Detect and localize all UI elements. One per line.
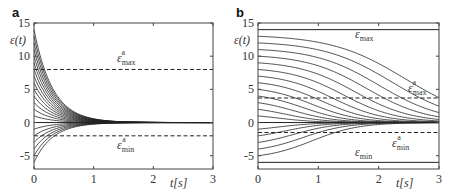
panel-a-eps-min-a-label: εmina	[117, 135, 134, 154]
trajectory-curve	[34, 76, 213, 122]
x-tick-label: 3	[210, 172, 216, 186]
x-tick-label: 2	[150, 172, 156, 186]
y-tick-label: 10	[18, 49, 30, 63]
panel-b-ylabel: ε(t)	[234, 33, 250, 47]
y-tick-label: 5	[248, 82, 254, 96]
y-tick-label: 15	[18, 16, 30, 30]
x-tick-label: 0	[31, 172, 37, 186]
y-tick-label: -5	[20, 149, 30, 163]
panel-b-eps-max-a-label: εmaxa	[408, 78, 427, 97]
panel-a-ticks: 0123-5051015	[18, 16, 216, 186]
x-tick-label: 0	[255, 172, 261, 186]
figure: a 0123-5051015 ε(t) t[s] εmaxa εmina b 0…	[0, 0, 452, 196]
panel-a-xlabel: t[s]	[170, 176, 188, 190]
x-tick-label: 2	[376, 172, 382, 186]
panel-a-chart: a 0123-5051015 ε(t) t[s] εmaxa εmina	[10, 5, 216, 190]
panel-b-eps-min-a-label: εmina	[392, 133, 409, 152]
panel-b-ticks: 0123-5051015	[242, 16, 442, 186]
y-tick-label: 15	[242, 16, 254, 30]
x-tick-label: 3	[436, 172, 442, 186]
y-tick-label: 5	[24, 82, 30, 96]
y-tick-label: -5	[244, 149, 254, 163]
y-tick-label: 0	[24, 116, 30, 130]
panel-a-ylabel: ε(t)	[10, 33, 26, 47]
panel-b-xlabel: t[s]	[396, 176, 414, 190]
trajectory-curve	[34, 63, 213, 123]
y-tick-label: 0	[248, 116, 254, 130]
panel-b-eps-min-label: εmin	[355, 145, 372, 161]
x-tick-label: 1	[91, 172, 97, 186]
panel-b-chart: b 0123-5051015 ε(t) t[s] εmax εmaxa εmin…	[234, 5, 442, 190]
x-tick-label: 1	[315, 172, 321, 186]
trajectory-curve	[258, 123, 439, 156]
y-tick-label: 10	[242, 49, 254, 63]
panel-a-eps-max-a-label: εmaxa	[117, 48, 136, 67]
